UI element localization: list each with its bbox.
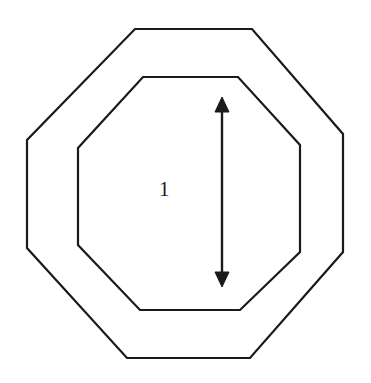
figure-canvas: 1 [0, 0, 371, 383]
figure-background [0, 0, 371, 383]
octagon-diagram-svg [0, 0, 371, 383]
dimension-label: 1 [159, 179, 170, 200]
